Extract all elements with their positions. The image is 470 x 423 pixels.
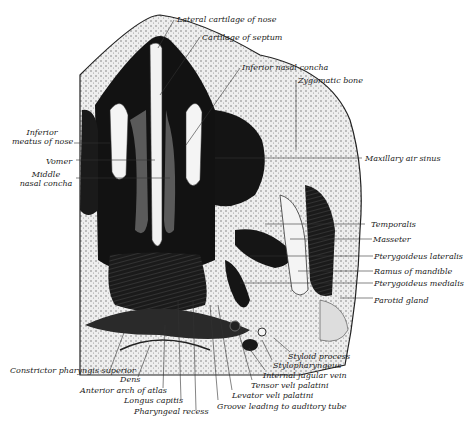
label-dens: Dens	[120, 375, 140, 384]
label-middle-concha: Middle nasal concha	[16, 170, 76, 188]
label-temporalis: Temporalis	[371, 220, 416, 229]
label-ramus-mandible: Ramus of mandible	[374, 267, 452, 276]
label-groove-auditory-tube: Groove leading to auditory tube	[217, 402, 347, 411]
label-lateral-cartilage: Lateral cartilage of nose	[177, 15, 276, 24]
label-parotid-gland: Parotid gland	[374, 296, 429, 305]
label-inferior-concha: Inferior nasal concha	[242, 63, 328, 72]
anatomical-section-illustration	[0, 0, 470, 423]
label-masseter: Masseter	[373, 235, 411, 244]
label-inferior-meatus-line2: meatus of nose	[12, 137, 73, 146]
label-pharyngeal-recess: Pharyngeal recess	[134, 407, 209, 416]
label-stylopharyngeus: Stylopharyngeus	[273, 361, 341, 370]
label-pterygoideus-lateralis: Pterygoideus lateralis	[374, 252, 463, 261]
label-middle-concha-line2: nasal concha	[20, 179, 73, 188]
label-tensor-veli-palatini: Tensor veli palatini	[251, 381, 329, 390]
label-anterior-arch-atlas: Anterior arch of atlas	[80, 386, 167, 395]
label-cartilage-septum: Cartilage of septum	[202, 33, 282, 42]
label-constrictor-pharyngis: Constrictor pharyngis superior	[10, 366, 136, 375]
label-internal-jugular-vein: Internal jugular vein	[263, 371, 347, 380]
label-zygomatic-bone: Zygomatic bone	[298, 76, 363, 85]
label-middle-concha-line1: Middle	[32, 170, 60, 179]
label-styloid-process: Styloid process	[288, 352, 350, 361]
label-inferior-meatus-line1: Inferior	[26, 128, 57, 137]
label-longus-capitis: Longus capitis	[124, 396, 183, 405]
label-maxillary-sinus: Maxillary air sinus	[365, 154, 441, 163]
label-vomer: Vomer	[30, 157, 72, 166]
label-inferior-meatus: Inferior meatus of nose	[12, 128, 72, 146]
label-pterygoideus-medialis: Pterygoideus medialis	[374, 279, 464, 288]
label-levator-veli-palatini: Levator veli palatini	[232, 391, 313, 400]
